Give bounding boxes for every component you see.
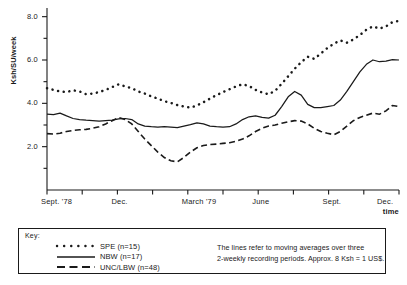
y-tick-label: 4.0 — [16, 98, 38, 107]
y-axis-ticks — [42, 17, 47, 169]
y-tick-label: 6.0 — [16, 55, 38, 64]
plot-svg — [0, 0, 407, 215]
legend-box: Key: SPE (n=15)NBW (n=17)UNC/LBW (n=48) … — [18, 228, 386, 274]
x-tick-label: Sept. — [323, 197, 342, 206]
legend-note: The lines refer to moving averages over … — [217, 242, 397, 264]
series-line-nbw — [47, 60, 399, 128]
legend-entry: SPE (n=15) — [55, 241, 235, 252]
x-axis-title: time — [383, 207, 399, 216]
figure-container: Ksh/SU/week 2.04.06.08.0 Sept. '78Dec.Ma… — [0, 0, 407, 285]
data-series-group — [47, 21, 399, 162]
x-tick-label: Dec. — [111, 197, 127, 206]
x-tick-label: March '79 — [182, 197, 217, 206]
legend-note-line-2: 2-weekly recording periods. Approx. 8 Ks… — [217, 253, 397, 264]
y-tick-label: 8.0 — [16, 12, 38, 21]
series-line-spe — [47, 21, 399, 108]
legend-entry-label: SPE (n=15) — [97, 242, 140, 251]
legend-entry: UNC/LBW (n=48) — [55, 262, 235, 273]
legend-entry: NBW (n=17) — [55, 252, 235, 263]
x-axis-ticks — [47, 190, 399, 195]
legend-entry-label: NBW (n=17) — [97, 252, 142, 261]
x-tick-label: Dec. — [377, 197, 393, 206]
legend-line-sample-dashed — [55, 262, 97, 272]
x-tick-label: June — [252, 197, 269, 206]
legend-entry-list: SPE (n=15)NBW (n=17)UNC/LBW (n=48) — [55, 241, 235, 273]
legend-title: Key: — [25, 232, 40, 239]
legend-note-line-1: The lines refer to moving averages over … — [217, 242, 397, 253]
chart-area: Ksh/SU/week 2.04.06.08.0 Sept. '78Dec.Ma… — [0, 0, 407, 215]
x-tick-label: Sept. '78 — [41, 197, 72, 206]
legend-entry-label: UNC/LBW (n=48) — [97, 263, 160, 272]
legend-line-sample-solid — [55, 252, 97, 262]
legend-line-sample-dotted — [55, 241, 97, 251]
series-line-unc-lbw — [47, 106, 399, 162]
y-tick-label: 2.0 — [16, 142, 38, 151]
